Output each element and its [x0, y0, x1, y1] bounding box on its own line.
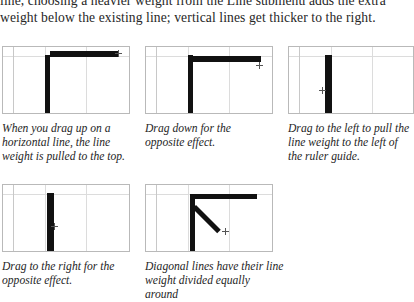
stroke-vertical-thick [47, 193, 54, 252]
canvas-panel-2 [145, 46, 273, 114]
stroke-horizontal-top [50, 51, 118, 57]
guide-vertical-icon [188, 185, 189, 251]
stroke-vertical [190, 194, 195, 252]
figure-caption-5: Diagonal lines have their line weight di… [145, 260, 285, 302]
ruler-vertical-icon [13, 185, 14, 251]
body-text-block: line, choosing a heavier weight from the… [0, 0, 414, 26]
guide-vertical-2-icon [372, 47, 373, 113]
guide-vertical-2-icon [86, 185, 87, 251]
figure-drag-down [145, 46, 273, 114]
canvas-panel-4 [2, 184, 130, 252]
body-text-line-1: line, choosing a heavier weight from the… [0, 0, 414, 9]
figure-caption-4: Drag to the right for the opposite effec… [2, 260, 132, 288]
figure-drag-right [2, 184, 130, 252]
stroke-vertical [188, 55, 193, 114]
figure-drag-up-horizontal [2, 46, 130, 114]
figure-caption-3: Drag to the left to pull the line weight… [288, 122, 414, 165]
stroke-vertical-thick [325, 55, 332, 114]
ruler-vertical-icon [299, 47, 300, 113]
guide-vertical-icon [45, 185, 46, 251]
canvas-panel-3 [288, 46, 414, 114]
stroke-horizontal-top [190, 194, 257, 199]
ruler-vertical-icon [156, 185, 157, 251]
figure-diagonal-lines [145, 184, 273, 252]
figure-drag-left [288, 46, 414, 114]
figure-caption-2: Drag down for the opposite effect. [145, 122, 273, 150]
ruler-vertical-icon [13, 47, 14, 113]
body-text-line-2: weight below the existing line; vertical… [0, 9, 414, 26]
canvas-panel-1 [2, 46, 130, 114]
guide-horizontal-icon [289, 56, 413, 57]
canvas-panel-5 [145, 184, 273, 252]
figure-caption-1: When you drag up on a horizontal line, t… [2, 122, 130, 165]
cursor-crosshair-icon [222, 228, 229, 235]
ruler-vertical-icon [156, 47, 157, 113]
stroke-diagonal [192, 205, 220, 233]
guide-horizontal-icon [3, 194, 129, 195]
stroke-horizontal-below [193, 56, 261, 62]
cursor-crosshair-icon [256, 62, 263, 69]
stroke-vertical [45, 55, 50, 114]
